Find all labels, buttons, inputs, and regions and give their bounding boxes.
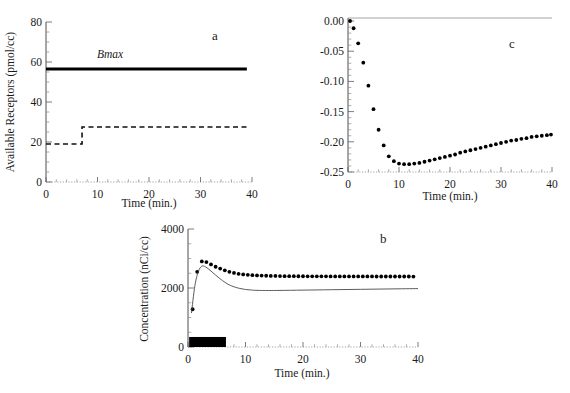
data-point — [453, 153, 457, 157]
data-point — [479, 146, 483, 150]
data-point — [379, 275, 383, 279]
y-tick-label: -0.05 — [320, 45, 344, 57]
x-tick-label: 40 — [246, 188, 258, 200]
panel-c: 0.00-0.05-0.10-0.15-0.20-0.25 010203040 … — [300, 0, 570, 215]
data-point — [443, 155, 447, 159]
data-point — [260, 274, 264, 278]
panel-c-letter: c — [509, 36, 515, 51]
x-tick-label: 30 — [495, 178, 507, 190]
data-point — [200, 260, 204, 264]
panel-b-x-axis-title: Time (min.) — [274, 367, 329, 380]
data-point — [251, 273, 255, 277]
panel-b-axes — [188, 229, 418, 347]
y-tick-label: 0 — [36, 176, 42, 188]
x-tick-label: 20 — [444, 178, 456, 190]
data-point — [474, 147, 478, 151]
y-tick-label: 4000 — [161, 223, 184, 235]
x-tick-label: 0 — [345, 178, 351, 190]
data-point — [232, 271, 236, 275]
panel-b-infusion-bar — [189, 337, 226, 347]
data-point — [402, 275, 406, 279]
series-dashed — [46, 127, 247, 144]
panel-a-plot: 020406080 010203040 a Bmax Time (min.) A… — [0, 0, 285, 215]
panel-c-series — [348, 19, 553, 166]
panel-c-y-ticks: 0.00-0.05-0.10-0.15-0.20-0.25 — [320, 15, 354, 178]
data-point — [366, 275, 370, 279]
data-point — [315, 274, 319, 278]
y-tick-label: -0.20 — [320, 136, 344, 148]
data-point — [209, 263, 213, 267]
panel-a-letter: a — [212, 28, 218, 43]
data-point — [407, 162, 411, 166]
data-point — [310, 274, 314, 278]
data-point — [223, 268, 227, 272]
data-point — [370, 275, 374, 279]
data-point — [438, 156, 442, 160]
panel-c-x-axis-title: Time (min.) — [422, 190, 477, 203]
panel-b-letter: b — [380, 231, 387, 246]
data-point — [397, 162, 401, 166]
panel-c-axes — [348, 18, 552, 172]
data-point — [320, 274, 324, 278]
data-point — [352, 275, 356, 279]
data-point — [264, 274, 268, 278]
panel-a: 020406080 010203040 a Bmax Time (min.) A… — [0, 0, 285, 215]
data-point — [530, 135, 534, 139]
data-point — [412, 275, 416, 279]
x-tick-label: 20 — [297, 353, 309, 365]
data-point — [504, 140, 508, 144]
panel-b-y-ticks: 020004000 — [161, 223, 194, 353]
panel-c-x-ticks: 010203040 — [345, 167, 558, 190]
data-point — [352, 26, 356, 30]
data-point — [255, 274, 259, 278]
data-point — [274, 274, 278, 278]
data-point — [545, 133, 549, 137]
data-point — [372, 107, 376, 111]
data-point — [301, 274, 305, 278]
data-point — [463, 150, 467, 154]
data-point — [287, 274, 291, 278]
panel-b: 020004000 010203040 b Time (min.) Concen… — [130, 213, 440, 393]
data-point — [402, 162, 406, 166]
x-tick-label: 30 — [355, 353, 367, 365]
data-point — [384, 275, 388, 279]
x-tick-label: 10 — [240, 353, 252, 365]
x-tick-label: 10 — [393, 178, 405, 190]
data-point — [489, 144, 493, 148]
model-curve — [191, 266, 418, 313]
panel-a-y-ticks: 020406080 — [31, 16, 53, 188]
y-tick-label: 2000 — [161, 282, 184, 294]
data-point — [514, 138, 518, 142]
data-point — [246, 273, 250, 277]
data-point — [484, 145, 488, 149]
y-tick-label: 0.00 — [324, 15, 344, 27]
panel-b-series — [191, 260, 418, 314]
data-point — [535, 134, 539, 138]
data-point — [418, 161, 422, 165]
panel-a-series — [46, 69, 247, 144]
data-point — [269, 274, 273, 278]
data-point — [549, 133, 553, 137]
data-point — [389, 275, 393, 279]
data-point — [393, 275, 397, 279]
data-point — [297, 274, 301, 278]
panel-a-y-axis-title: Available Receptors (pmol/cc) — [4, 32, 17, 172]
x-tick-label: 30 — [195, 188, 207, 200]
data-point — [338, 275, 342, 279]
data-point — [367, 84, 371, 88]
y-tick-label: 40 — [31, 96, 43, 108]
x-tick-label: 0 — [43, 188, 49, 200]
infusion-bar-rect — [189, 337, 226, 347]
data-point — [423, 160, 427, 164]
data-point — [324, 274, 328, 278]
x-tick-label: 0 — [185, 353, 191, 365]
data-point — [214, 265, 218, 269]
data-point — [469, 148, 473, 152]
data-point — [520, 137, 524, 141]
panel-c-plot: 0.00-0.05-0.10-0.15-0.20-0.25 010203040 … — [300, 0, 570, 215]
data-point — [356, 275, 360, 279]
y-tick-label: 0 — [178, 341, 184, 353]
panel-b-y-axis-title: Concentration (nCi/cc) — [138, 236, 151, 342]
data-point — [387, 154, 391, 158]
panel-a-axes — [46, 22, 252, 182]
